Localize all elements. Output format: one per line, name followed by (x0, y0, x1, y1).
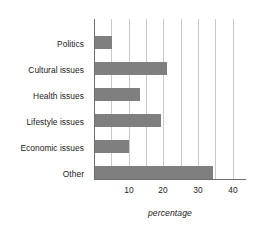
gridline-40 (233, 19, 234, 179)
bar-chart-figure: Politics Cultural issues Health issues L… (0, 0, 277, 237)
x-axis-line (94, 179, 246, 180)
gridline-35 (215, 19, 216, 179)
y-axis-line (94, 19, 95, 180)
bar-cultural-issues (95, 62, 167, 75)
bar-health-issues (95, 88, 140, 101)
category-label-politics: Politics (0, 40, 84, 48)
category-label-lifestyle-issues: Lifestyle issues (0, 118, 84, 126)
category-label-economic-issues: Economic issues (0, 144, 84, 152)
x-axis-title: percentage (94, 209, 246, 218)
gridline-20 (163, 19, 164, 179)
category-label-health-issues: Health issues (0, 92, 84, 100)
x-tick-label-10: 10 (114, 186, 144, 194)
x-tick-label-30: 30 (183, 186, 213, 194)
x-tick-label-20: 20 (148, 186, 178, 194)
category-label-cultural-issues: Cultural issues (0, 66, 84, 74)
bar-politics (95, 36, 112, 49)
plot-area (94, 19, 246, 180)
x-tick-label-40: 40 (218, 186, 248, 194)
category-axis-labels: Politics Cultural issues Health issues L… (0, 19, 90, 180)
gridline-30 (198, 19, 199, 179)
bar-economic-issues (95, 140, 129, 153)
gridline-25 (181, 19, 182, 179)
bar-lifestyle-issues (95, 114, 161, 127)
bar-other (95, 166, 213, 179)
gridline-15 (146, 19, 147, 179)
x-axis-tick-labels: 10 20 30 40 (94, 186, 254, 200)
category-label-other: Other (0, 170, 84, 178)
